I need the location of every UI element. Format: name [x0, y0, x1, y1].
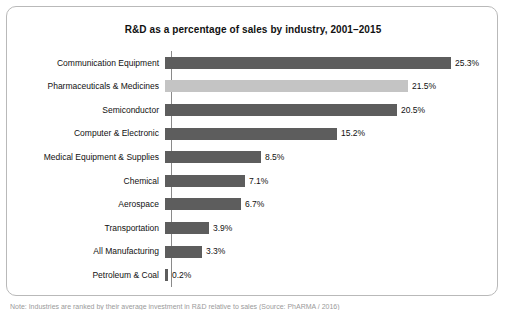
- bar-track: 8.5%: [165, 145, 487, 169]
- bar-value-label: 20.5%: [401, 106, 425, 115]
- bar[interactable]: [165, 269, 168, 281]
- bar-row: Transportation 3.9%: [19, 216, 487, 240]
- bar-value-label: 7.1%: [249, 177, 268, 186]
- bar-value-label: 6.7%: [245, 200, 264, 209]
- bar-track: 6.7%: [165, 193, 487, 217]
- bar-value-label: 21.5%: [412, 82, 436, 91]
- category-label: Aerospace: [19, 200, 165, 209]
- bar-row: Communication Equipment 25.3%: [19, 51, 487, 75]
- bar[interactable]: [165, 151, 261, 163]
- category-label: Communication Equipment: [19, 59, 165, 68]
- bar-row: Chemical 7.1%: [19, 169, 487, 193]
- category-label: Transportation: [19, 224, 165, 233]
- category-label: Semiconductor: [19, 106, 165, 115]
- bar-row: All Manufacturing 3.3%: [19, 240, 487, 264]
- bar[interactable]: [165, 128, 337, 140]
- bar-track: 21.5%: [165, 75, 487, 99]
- category-label: Pharmaceuticals & Medicines: [19, 82, 165, 91]
- bar[interactable]: [165, 80, 408, 92]
- bar-value-label: 0.2%: [172, 271, 191, 280]
- bar-value-label: 8.5%: [265, 153, 284, 162]
- bar[interactable]: [165, 198, 241, 210]
- bar-track: 25.3%: [165, 51, 487, 75]
- bar[interactable]: [165, 222, 209, 234]
- category-label: Computer & Electronic: [19, 129, 165, 138]
- bar-row: Computer & Electronic 15.2%: [19, 122, 487, 146]
- bar-track: 7.1%: [165, 169, 487, 193]
- bar-row: Petroleum & Coal 0.2%: [19, 263, 487, 287]
- category-label: Medical Equipment & Supplies: [19, 153, 165, 162]
- bar-value-label: 25.3%: [455, 59, 479, 68]
- chart-frame: R&D as a percentage of sales by industry…: [6, 6, 498, 296]
- bar-row: Medical Equipment & Supplies 8.5%: [19, 145, 487, 169]
- bar-value-label: 3.3%: [206, 247, 225, 256]
- chart-title: R&D as a percentage of sales by industry…: [7, 24, 499, 35]
- bar-track: 20.5%: [165, 98, 487, 122]
- chart-page: R&D as a percentage of sales by industry…: [0, 0, 506, 321]
- bar-value-label: 3.9%: [213, 224, 232, 233]
- bar-row: Pharmaceuticals & Medicines 21.5%: [19, 75, 487, 99]
- bar-track: 3.3%: [165, 240, 487, 264]
- bar-track: 0.2%: [165, 263, 487, 287]
- category-label: All Manufacturing: [19, 247, 165, 256]
- source-note: Note: Industries are ranked by their ave…: [10, 303, 506, 310]
- category-label: Chemical: [19, 177, 165, 186]
- bar-value-label: 15.2%: [341, 129, 365, 138]
- bar[interactable]: [165, 104, 397, 116]
- chart-plot-area: Communication Equipment 25.3% Pharmaceut…: [19, 51, 487, 287]
- bar-track: 15.2%: [165, 122, 487, 146]
- bar[interactable]: [165, 57, 451, 69]
- category-label: Petroleum & Coal: [19, 271, 165, 280]
- bar-row: Aerospace 6.7%: [19, 193, 487, 217]
- bar[interactable]: [165, 246, 202, 258]
- bar-row: Semiconductor 20.5%: [19, 98, 487, 122]
- bar-track: 3.9%: [165, 216, 487, 240]
- bar[interactable]: [165, 175, 245, 187]
